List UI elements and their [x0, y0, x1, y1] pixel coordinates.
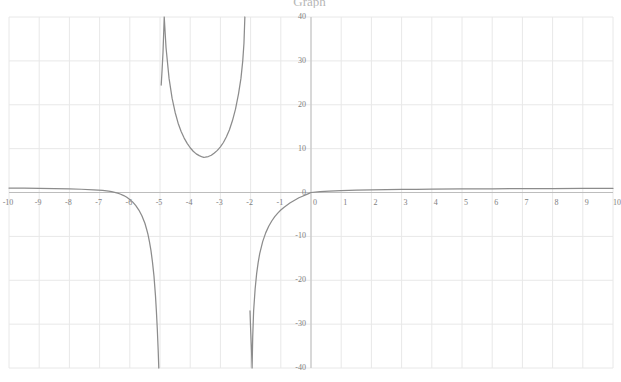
x-tick-label: 3 [404, 199, 408, 207]
y-tick-label: 0 [289, 189, 306, 197]
x-tick-label: 1 [343, 199, 347, 207]
x-tick-label: 7 [524, 199, 528, 207]
y-tick-label: -20 [289, 276, 306, 284]
x-tick-label: -2 [246, 199, 253, 207]
x-tick-label: -8 [65, 199, 72, 207]
x-tick-label: -3 [216, 199, 223, 207]
y-tick-label: -30 [289, 320, 306, 328]
y-tick-label: -40 [289, 364, 306, 372]
x-tick-label: 5 [464, 199, 468, 207]
x-tick-label: 9 [585, 199, 589, 207]
x-tick-label: -5 [156, 199, 163, 207]
x-tick-label: -4 [186, 199, 193, 207]
y-tick-label: 40 [289, 13, 306, 21]
curve-branch-left [9, 188, 159, 368]
x-tick-label: 2 [373, 199, 377, 207]
x-tick-label: -7 [95, 199, 102, 207]
x-tick-label: -9 [35, 199, 42, 207]
y-tick-label: 10 [289, 145, 306, 153]
x-tick-label: 10 [613, 199, 621, 207]
x-tick-label: -1 [276, 199, 283, 207]
y-tick-label: -10 [289, 232, 306, 240]
curve-branch-middle [161, 17, 245, 157]
y-tick-label: 20 [289, 101, 306, 109]
x-tick-label: 8 [555, 199, 559, 207]
x-tick-label: 4 [434, 199, 438, 207]
x-tick-label: -6 [125, 199, 132, 207]
x-tick-label: 6 [494, 199, 498, 207]
y-tick-label: 30 [289, 57, 306, 65]
x-tick-label: -10 [3, 199, 14, 207]
x-tick-label: 0 [313, 199, 317, 207]
